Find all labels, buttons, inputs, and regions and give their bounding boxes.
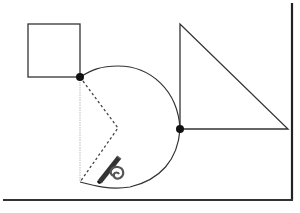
square-shape[interactable] [28,24,80,77]
spiral-icon [111,167,123,179]
triangle-shape[interactable] [180,24,288,129]
anchor-dot[interactable] [176,125,184,133]
arc-shape[interactable] [80,66,180,188]
anchor-dot[interactable] [76,73,84,81]
diagram-canvas [0,0,300,213]
pencil-icon [97,156,121,184]
